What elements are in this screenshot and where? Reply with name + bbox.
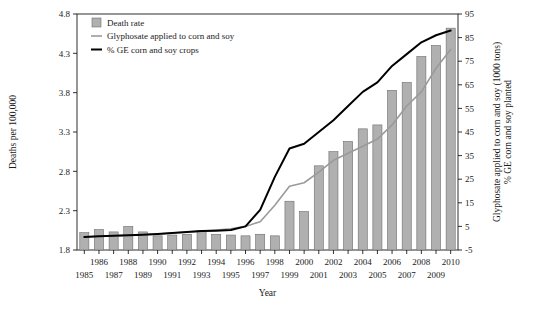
x-tick-label-upper: 2010 — [442, 257, 461, 267]
bar-death-rate — [373, 125, 382, 250]
bar-death-rate — [402, 82, 411, 250]
y-right-tick-label: 45 — [465, 127, 475, 137]
y-right-tick-label: 85 — [465, 33, 475, 43]
y-left-tick-label: 3.8 — [59, 88, 71, 98]
legend-item: Death rate — [92, 18, 144, 28]
x-tick-label-upper: 1988 — [119, 257, 138, 267]
x-tick-label-lower: 1985 — [75, 270, 94, 280]
legend-item: Glyphosate applied to corn and soy — [91, 31, 235, 41]
bar-death-rate — [94, 230, 103, 250]
y-right-tick-label: 35 — [465, 151, 475, 161]
bar-death-rate — [431, 45, 440, 250]
y-left-tick-label: 4.8 — [59, 9, 71, 19]
x-tick-label-lower: 1999 — [280, 270, 299, 280]
y-right-tick-label: 55 — [465, 104, 475, 114]
x-tick-label-upper: 2002 — [324, 257, 342, 267]
y-left-tick-label: 3.3 — [59, 127, 71, 137]
bar-death-rate — [344, 141, 353, 250]
x-axis-title: Year — [259, 288, 277, 298]
bar-death-rate — [256, 234, 265, 250]
y-left-tick-label: 4.3 — [59, 49, 71, 59]
legend-item: % GE corn and soy crops — [91, 45, 199, 55]
x-tick-label-lower: 1987 — [105, 270, 124, 280]
y-axis-left-title: Deaths per 100,000 — [8, 95, 18, 169]
x-tick-label-lower: 1993 — [193, 270, 212, 280]
y-right-tick-label: -5 — [465, 245, 473, 255]
y-right-tick-label: 25 — [465, 174, 475, 184]
bar-death-rate — [388, 90, 397, 250]
y-right-tick-label: 75 — [465, 56, 475, 66]
y-right-tick-label: 95 — [465, 9, 475, 19]
x-tick-label-upper: 1994 — [207, 257, 226, 267]
bar-death-rate — [314, 166, 323, 250]
x-tick-label-lower: 2009 — [427, 270, 446, 280]
x-tick-label-upper: 2006 — [383, 257, 402, 267]
x-tick-label-upper: 2004 — [354, 257, 373, 267]
bar-death-rate — [197, 230, 206, 250]
y-right-tick-label: 5 — [465, 222, 470, 232]
legend-swatch-icon — [92, 18, 101, 27]
y-axis-right-title-line1: Glyphosate applied to corn and soy (1000… — [492, 42, 503, 222]
deaths-glyphosate-ge-chart: 1.82.32.83.33.84.34.8-551525354555657585… — [0, 0, 536, 319]
y-left-tick-label: 2.8 — [59, 167, 71, 177]
x-tick-label-lower: 2003 — [339, 270, 358, 280]
bar-death-rate — [241, 236, 250, 250]
x-tick-label-lower: 1995 — [222, 270, 241, 280]
bar-death-rate — [182, 234, 191, 250]
x-tick-label-upper: 1998 — [266, 257, 285, 267]
x-tick-label-upper: 2008 — [412, 257, 431, 267]
y-left-tick-label: 2.3 — [59, 206, 71, 216]
bar-death-rate — [168, 235, 177, 250]
bar-death-rate — [109, 232, 118, 250]
x-tick-label-upper: 1992 — [178, 257, 196, 267]
x-tick-label-upper: 1986 — [90, 257, 109, 267]
bar-death-rate — [124, 226, 133, 250]
x-tick-label-upper: 1990 — [149, 257, 168, 267]
bar-death-rate — [226, 235, 235, 250]
legend-label: % GE corn and soy crops — [107, 45, 199, 55]
chart-container: 1.82.32.83.33.84.34.8-551525354555657585… — [0, 0, 536, 319]
bar-death-rate — [270, 236, 279, 250]
bar-death-rate — [285, 201, 294, 250]
x-tick-label-lower: 1989 — [134, 270, 153, 280]
bar-death-rate — [212, 234, 221, 250]
y-right-tick-label: 15 — [465, 198, 475, 208]
bar-death-rate — [446, 28, 455, 250]
x-tick-label-lower: 2005 — [368, 270, 387, 280]
bar-death-rate — [153, 236, 162, 250]
legend-label: Death rate — [107, 18, 144, 28]
y-axis-right-title-line2: % GE corn and soy planted — [503, 80, 513, 184]
bar-death-rate — [329, 152, 338, 250]
x-tick-label-lower: 1997 — [251, 270, 270, 280]
x-tick-label-lower: 2001 — [310, 270, 328, 280]
y-left-tick-label: 1.8 — [59, 245, 71, 255]
x-tick-label-upper: 1996 — [237, 257, 256, 267]
bar-death-rate — [300, 211, 309, 250]
legend-label: Glyphosate applied to corn and soy — [107, 31, 235, 41]
y-right-tick-label: 65 — [465, 80, 475, 90]
x-tick-label-lower: 2007 — [398, 270, 417, 280]
x-tick-label-upper: 2000 — [295, 257, 314, 267]
bar-death-rate — [80, 233, 89, 250]
x-tick-label-lower: 1991 — [163, 270, 181, 280]
